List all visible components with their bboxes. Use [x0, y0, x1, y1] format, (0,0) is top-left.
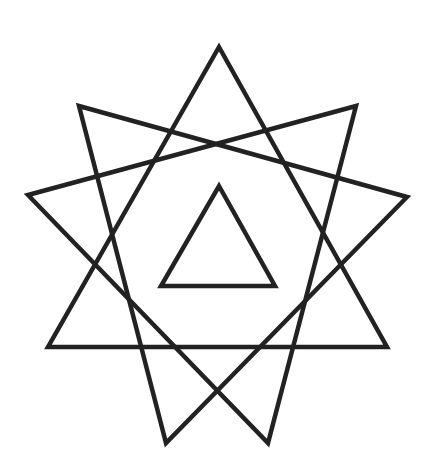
star-figure-svg	[0, 0, 435, 469]
star-figure	[0, 0, 435, 469]
